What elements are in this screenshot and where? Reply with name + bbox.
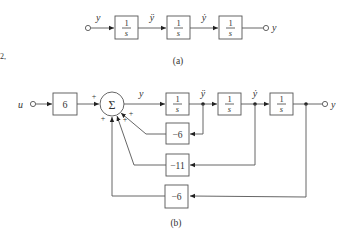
diagram-b: u 6 + Σ + + + y⃛ 1 s ÿ 1 s ẏ 1 s (18, 88, 336, 229)
feedback-gain-value: −6 (171, 192, 181, 202)
signal-label-ydd: ÿ (200, 88, 206, 99)
feedback-line (112, 117, 165, 196)
block-numerator: 1 (228, 18, 232, 28)
block-numerator: 1 (124, 18, 128, 28)
feedback-gain-value: −11 (170, 161, 185, 171)
sign-plus: + (101, 114, 106, 123)
output-node (322, 101, 327, 106)
signal-label-yd: ẏ (252, 88, 258, 99)
block-diagrams: y⃛ 1 s ÿ 1 s ẏ 1 s y (a) 2, u 6 + Σ + (0, 0, 352, 238)
feedback-line (190, 104, 203, 134)
sign-plus: + (129, 109, 134, 118)
signal-label-yddd: y⃛ (138, 88, 151, 99)
feedback-line (190, 104, 306, 197)
input-label: u (18, 99, 23, 110)
input-node (30, 101, 35, 106)
caption-b: (b) (170, 218, 181, 229)
input-gain-value: 6 (63, 99, 68, 110)
caption-a: (a) (173, 56, 184, 67)
margin-mark: 2, (0, 52, 6, 61)
sign-plus: + (92, 92, 97, 101)
signal-label-ydd: ÿ (149, 12, 155, 23)
sigma-symbol: Σ (109, 98, 116, 112)
signal-label-yddd: y⃛ (95, 12, 108, 23)
output-label: y (271, 22, 277, 33)
input-node (85, 25, 90, 30)
block-numerator: 1 (227, 94, 231, 104)
output-node (263, 25, 268, 30)
feedback-gain-value: −6 (172, 130, 182, 140)
block-numerator: 1 (175, 94, 179, 104)
signal-label-yd: ẏ (201, 12, 207, 23)
output-label: y (330, 99, 336, 110)
block-numerator: 1 (176, 18, 180, 28)
block-numerator: 1 (279, 94, 283, 104)
diagram-a: y⃛ 1 s ÿ 1 s ẏ 1 s y (a) (85, 12, 277, 67)
